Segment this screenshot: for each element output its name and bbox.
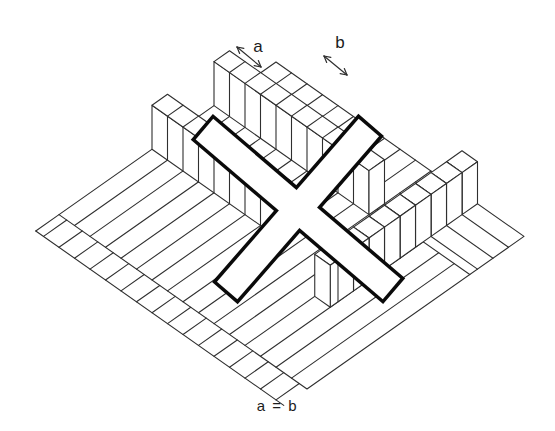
figure-canvas: a b a = b — [0, 0, 555, 431]
isometric-illusion-drawing — [0, 0, 555, 431]
equation-caption: a = b — [0, 397, 555, 414]
dimension-arrow-b — [324, 56, 347, 75]
dimension-label-b: b — [335, 34, 344, 51]
dimension-label-a: a — [253, 38, 262, 55]
